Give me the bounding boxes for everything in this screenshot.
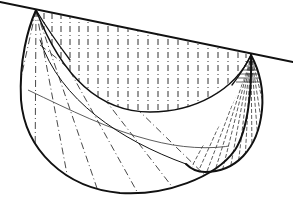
middle-curve	[40, 40, 186, 164]
left-apex-edge	[36, 10, 70, 60]
left-lobe-hatching	[0, 10, 235, 197]
lobe-diagram	[0, 0, 293, 197]
right-lobe-hatching	[190, 55, 265, 174]
diagram-canvas	[0, 0, 293, 197]
inner-arc	[36, 10, 251, 112]
